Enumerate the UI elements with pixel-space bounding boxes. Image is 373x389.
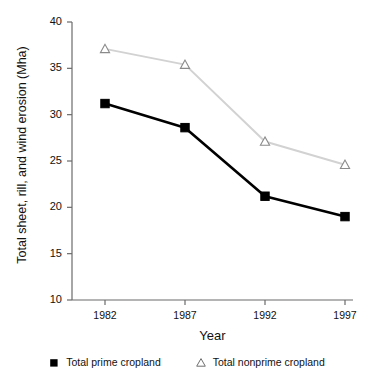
legend-item: Total nonprime cropland: [195, 356, 325, 368]
nonprime-line: [105, 49, 345, 165]
x-tick-label: 1982: [80, 310, 130, 321]
x-tick-label: 1997: [320, 310, 370, 321]
erosion-line-chart: Total sheet, rill, and wind erosion (Mha…: [0, 0, 373, 389]
axis-lines: [72, 22, 353, 300]
chart-legend: Total prime croplandTotal nonprime cropl…: [0, 356, 373, 368]
y-tick-label: 40: [38, 16, 62, 27]
filled-square-marker-icon: [48, 356, 60, 368]
nonprime-data-point: [100, 44, 109, 52]
series-total-nonprime-cropland: [100, 44, 349, 168]
y-tick-marks: [67, 22, 72, 300]
y-tick-label: 30: [38, 109, 62, 120]
prime-data-point: [101, 99, 109, 107]
legend-item: Total prime cropland: [48, 356, 161, 368]
y-tick-label: 10: [38, 294, 62, 305]
y-axis-label: Total sheet, rill, and wind erosion (Mha…: [15, 46, 29, 263]
prime-data-point: [341, 212, 349, 220]
y-tick-label: 25: [38, 155, 62, 166]
plot-area: [72, 22, 353, 300]
y-tick-label: 20: [38, 201, 62, 212]
prime-data-point: [181, 123, 189, 131]
y-tick-label: 35: [38, 62, 62, 73]
series-total-prime-cropland: [101, 99, 349, 220]
prime-line: [105, 104, 345, 217]
open-triangle-marker-icon: [195, 356, 207, 368]
y-tick-label: 15: [38, 248, 62, 259]
chart-svg: [72, 22, 353, 300]
x-tick-label: 1992: [240, 310, 290, 321]
x-tick-marks: [105, 300, 345, 305]
x-axis-label: Year: [72, 328, 353, 343]
series-layer: [100, 44, 349, 221]
legend-item-label: Total nonprime cropland: [213, 356, 325, 368]
prime-data-point: [261, 192, 269, 200]
legend-item-label: Total prime cropland: [66, 356, 161, 368]
x-tick-label: 1987: [160, 310, 210, 321]
